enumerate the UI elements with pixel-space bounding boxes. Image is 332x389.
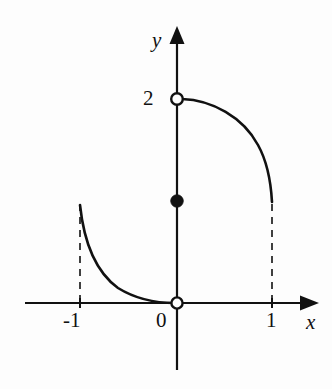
x-tick-label-0: 0 (156, 310, 167, 331)
x-axis-arrowhead (300, 296, 319, 311)
x-tick-label-neg1: -1 (63, 310, 81, 331)
filled-point-0-1 (171, 195, 183, 207)
graph-figure: y x 2 -1 0 1 (0, 0, 332, 389)
open-point-origin (171, 297, 182, 308)
y-axis-arrowhead (170, 26, 185, 44)
y-axis-label: y (152, 30, 161, 51)
open-point-0-2 (171, 93, 183, 105)
y-tick-label-2: 2 (143, 88, 154, 109)
right-branch-curve (182, 99, 272, 202)
x-tick-label-1: 1 (266, 310, 277, 331)
x-axis-label: x (306, 312, 315, 333)
left-branch-curve (80, 205, 175, 303)
